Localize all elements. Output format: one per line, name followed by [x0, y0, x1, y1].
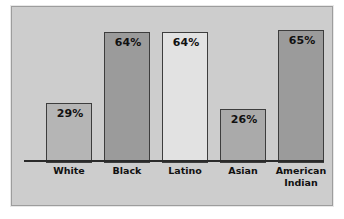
bar-black[interactable]: 64%: [104, 32, 150, 163]
category-label-black-line1: Black: [96, 165, 158, 177]
chart-panel: 29% 64% 64% 26% 65% White: [11, 6, 333, 206]
category-label-latino-line1: Latino: [154, 165, 216, 177]
plot-area: 29% 64% 64% 26% 65%: [24, 15, 322, 163]
category-label-american-indian-line1: American: [270, 165, 332, 177]
bar-american-indian[interactable]: 65%: [278, 30, 324, 163]
bar-value-black: 64%: [105, 37, 151, 49]
category-label-white-line1: White: [38, 165, 100, 177]
bar-value-asian: 26%: [221, 114, 267, 126]
category-label-black: Black: [96, 165, 158, 177]
x-axis-tick-labels: White Black Latino Asian American Indian: [24, 165, 324, 199]
category-label-asian-line1: Asian: [212, 165, 274, 177]
category-label-latino: Latino: [154, 165, 216, 177]
bar-white[interactable]: 29%: [46, 103, 92, 163]
bar-value-white: 29%: [47, 108, 93, 120]
bar-latino[interactable]: 64%: [162, 32, 208, 163]
bar-asian[interactable]: 26%: [220, 109, 266, 163]
bar-value-latino: 64%: [163, 37, 209, 49]
category-label-white: White: [38, 165, 100, 177]
category-label-american-indian-line2: Indian: [270, 177, 332, 189]
category-label-asian: Asian: [212, 165, 274, 177]
bar-value-american-indian: 65%: [279, 35, 325, 47]
x-axis-line: [24, 160, 324, 162]
category-label-american-indian: American Indian: [270, 165, 332, 189]
